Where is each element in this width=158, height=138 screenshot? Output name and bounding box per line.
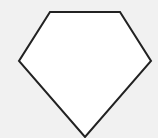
- diagram-canvas: [0, 0, 158, 138]
- pentagon-shape: [19, 12, 151, 137]
